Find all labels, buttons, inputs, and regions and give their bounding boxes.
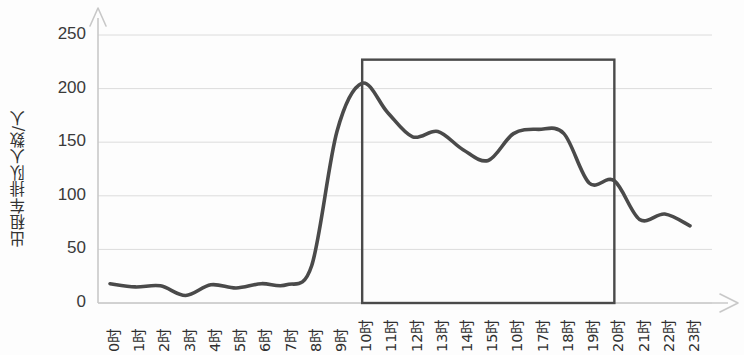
- x-tick-label: 9时: [329, 329, 350, 352]
- y-tick-label: 50: [30, 238, 86, 258]
- x-tick-label: 23时: [682, 320, 703, 352]
- y-tick-label: 150: [30, 131, 86, 151]
- gridlines-group: [98, 35, 712, 303]
- x-tick-label: 5时: [228, 329, 249, 352]
- chart-container: 出租车排队人数/人 050100150200250 0时1时2时3时4时5时6时…: [0, 0, 744, 355]
- peak-period-highlight: [362, 60, 614, 303]
- y-tick-label: 100: [30, 185, 86, 205]
- axes-group: [90, 8, 738, 312]
- x-tick-label: 13时: [430, 320, 451, 352]
- x-tick-label: 20时: [606, 320, 627, 352]
- x-tick-label: 18时: [556, 320, 577, 352]
- data-line-group: [110, 83, 690, 296]
- x-tick-label: 8时: [304, 329, 325, 352]
- x-tick-label: 14时: [455, 320, 476, 352]
- x-tick-label: 17时: [531, 320, 552, 352]
- x-tick-label: 4时: [203, 329, 224, 352]
- x-tick-label: 12时: [405, 320, 426, 352]
- data-line: [110, 83, 690, 296]
- x-tick-label: 21时: [632, 320, 653, 352]
- y-tick-label: 0: [30, 292, 86, 312]
- x-tick-label: 3时: [178, 329, 199, 352]
- x-tick-label: 19时: [581, 320, 602, 352]
- x-tick-label: 11时: [379, 320, 400, 352]
- x-tick-label: 15时: [480, 320, 501, 352]
- x-tick-label: 0时: [102, 329, 123, 352]
- x-tick-label: 10时: [354, 320, 375, 352]
- y-tick-label: 200: [30, 78, 86, 98]
- x-tick-label: 22时: [657, 320, 678, 352]
- x-tick-label: 6时: [253, 329, 274, 352]
- x-tick-label: 10时: [505, 320, 526, 352]
- y-tick-label: 250: [30, 24, 86, 44]
- peak-period-rect: [362, 60, 614, 303]
- chart-plot-svg: [0, 0, 744, 355]
- x-tick-label: 1时: [127, 329, 148, 352]
- x-tick-label: 7时: [279, 329, 300, 352]
- x-tick-label: 2时: [152, 329, 173, 352]
